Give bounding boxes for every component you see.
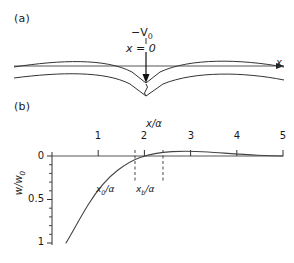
- figure-container: (a) (b): [0, 0, 294, 263]
- marker-label-xb-alpha: xb/α: [136, 184, 154, 197]
- x-tick-label-5: 5: [276, 130, 290, 141]
- marker-label-x0-alpha: x0/α: [96, 184, 114, 197]
- x-tick-label-1: 1: [91, 130, 105, 141]
- x-tick-label-4: 4: [230, 130, 244, 141]
- panel-a-well-squiggle: [145, 84, 148, 96]
- x-tick-label-2: 2: [137, 130, 151, 141]
- x-tick-label-3: 3: [184, 130, 198, 141]
- panel-b-y-axis-title: w/w0: [13, 171, 27, 195]
- panel-b-x-axis-title: x/α: [146, 118, 162, 129]
- potential-depth-label: −V0: [131, 26, 153, 41]
- panel-b-data-curve: [66, 151, 283, 243]
- panel-b-graphics: [47, 150, 283, 245]
- y-tick-label-1: 1: [22, 236, 44, 247]
- origin-position-label: x = 0: [126, 42, 156, 55]
- panel-a-lower-band-curve: [14, 74, 284, 96]
- panel-a-x-axis-label: x: [276, 57, 282, 68]
- panel-a-upper-band-curve: [14, 61, 284, 83]
- y-tick-label-0-5: 0.5: [22, 193, 44, 204]
- y-tick-label-0: 0: [22, 150, 44, 161]
